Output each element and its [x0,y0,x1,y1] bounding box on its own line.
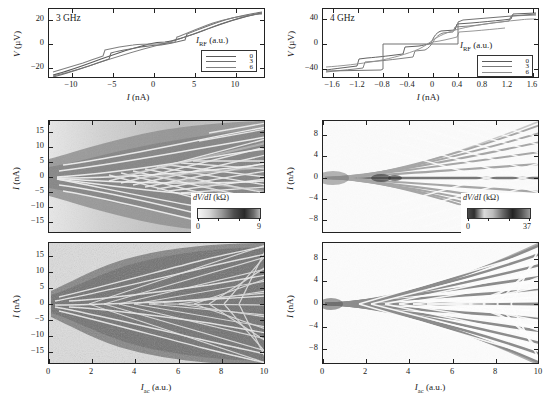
tick [113,9,114,13]
colorbar-min-label: 0 [196,222,200,231]
ytick-label: 0 [294,299,318,307]
tick [323,359,324,363]
tick [534,156,538,157]
ytick-label: 8 [294,254,318,262]
colorbar-title: dV/dI (kΩ) [463,193,499,202]
tick [49,147,53,148]
xtick-label: 10 [231,81,239,89]
ytick-label: 0 [20,172,44,180]
legend-box: 0 3 6 [477,55,533,77]
colorbar-right: dV/dI (kΩ) 0 37 [461,193,547,237]
yaxis-unit: (nA) [285,167,295,184]
tick [92,121,93,125]
tick [49,132,53,133]
panel-map-left-bottom-axes [48,242,265,364]
legend-unit: (a.u.) [473,40,492,50]
tick [154,73,155,77]
xaxis-unit: (nA) [422,92,439,102]
tick [323,69,327,70]
tick [260,320,264,321]
ytick-label: −15 [14,217,44,225]
ytick-label: −4 [290,322,318,330]
tick [49,20,53,21]
yaxis-symbol: V [12,51,22,57]
ytick-label: −8 [290,344,318,352]
tick [222,359,223,363]
tick [49,359,50,363]
xtick-label: −1.2 [349,81,364,89]
xtick-label: 8 [219,368,223,376]
xtick-label: 6 [450,368,454,376]
xtick-label: −5 [108,81,117,89]
ytick-label: 5 [20,283,44,291]
colorbar-left: dV/dI (kΩ) 0 9 [191,193,271,237]
heatmap-right-bottom [323,243,539,364]
ytick-label: −40 [292,64,318,72]
colorbar-tick [488,218,489,221]
colorbar-unit: (kΩ) [213,193,229,202]
legend-subscript: RF [463,45,471,52]
colorbar-tick [468,218,469,221]
colorbar-max-label: 37 [523,222,531,231]
tick [260,147,264,148]
tick [135,359,136,363]
colorbar-gradient [197,208,261,219]
tick [366,121,367,125]
tick [49,177,53,178]
tick [323,304,327,305]
xtick-label: −10 [64,81,77,89]
ytick-label: −10 [14,202,44,210]
tick [49,272,53,273]
xtick-label: 4 [406,368,410,376]
xaxis-unit: (nA) [132,92,149,102]
colorbar-gradient [467,208,531,219]
colorbar-symbol: dV/dI [193,193,211,202]
tick [260,132,264,133]
xtick-label: 1.6 [527,81,537,89]
tick [534,44,538,45]
yaxis-unit: (µV) [286,31,296,49]
legend-unit: (a.u.) [209,35,228,45]
yaxis-unit: (nA) [285,295,295,312]
tick [383,9,384,13]
xaxis-unit: (a.u.) [426,382,445,392]
tick [179,359,180,363]
tick [534,304,538,305]
colorbar-min-label: 0 [466,222,470,231]
tick [458,9,459,13]
yaxis-symbol: I [285,315,295,318]
tick [236,73,237,77]
legend-value: 6 [526,68,530,75]
tick [323,121,324,125]
xtick-label: 0.4 [452,81,462,89]
xaxis-symbol: I [417,92,420,102]
tick [260,272,264,273]
tick [179,121,180,125]
ytick-label: 20 [24,15,44,23]
xaxis-label: I (nA) [417,92,440,102]
tick [323,178,327,179]
tick [49,320,53,321]
tick [49,256,53,257]
legend-line-swatch [482,72,512,73]
tick [534,259,538,260]
colorbar-tick [509,218,510,221]
tick [534,19,538,20]
tick [323,220,327,221]
yaxis-symbol: V [286,51,296,57]
tick [260,336,264,337]
tick [323,135,327,136]
colorbar-unit: (kΩ) [483,193,499,202]
yaxis-unit: (nA) [11,295,21,312]
tick [260,44,264,45]
ytick-label: 0 [298,39,318,47]
tick [496,359,497,363]
yaxis-symbol: I [11,187,21,190]
tick [135,121,136,125]
tick [533,9,534,13]
tick [195,9,196,13]
ytick-label: −8 [290,215,318,223]
legend-box: 0 3 6 [201,50,257,72]
ytick-label: 4 [294,276,318,284]
legend-line-swatch [482,61,512,62]
